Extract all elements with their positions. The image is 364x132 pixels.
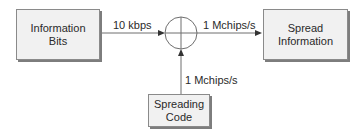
spreading-code-label: Spreading Code xyxy=(154,98,204,124)
edge-label-code-rate: 1 Mchips/s xyxy=(185,74,238,86)
arrowhead-icon xyxy=(158,30,165,36)
spread-information-block: Spread Information xyxy=(263,9,348,60)
arrowhead-icon xyxy=(255,30,262,36)
edge-label-spread-rate: 1 Mchips/s xyxy=(203,19,256,31)
spreading-code-block: Spreading Code xyxy=(148,94,210,127)
edge-label-info-rate: 10 kbps xyxy=(113,19,152,31)
information-bits-block: Information Bits xyxy=(16,9,100,60)
spread-information-label: Spread Information xyxy=(278,22,333,48)
multiplier-junction-icon xyxy=(165,17,197,49)
information-bits-label: Information Bits xyxy=(30,22,85,48)
arrowhead-icon xyxy=(178,49,184,56)
